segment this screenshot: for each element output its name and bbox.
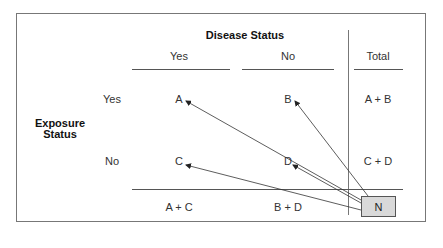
arrow-n-to-b — [295, 101, 368, 196]
n-label: N — [375, 201, 383, 213]
arrow-n-to-d — [293, 165, 361, 203]
n-total-box: N — [361, 196, 396, 217]
arrow-n-to-c — [186, 165, 361, 210]
arrow-n-to-a — [186, 101, 361, 200]
